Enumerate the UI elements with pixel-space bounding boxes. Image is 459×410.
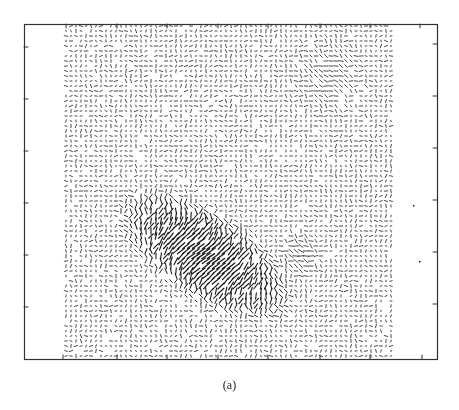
figure-caption: (a) xyxy=(0,378,459,393)
vector-field-figure: (a) xyxy=(0,0,459,410)
quiver-plot xyxy=(0,0,459,410)
